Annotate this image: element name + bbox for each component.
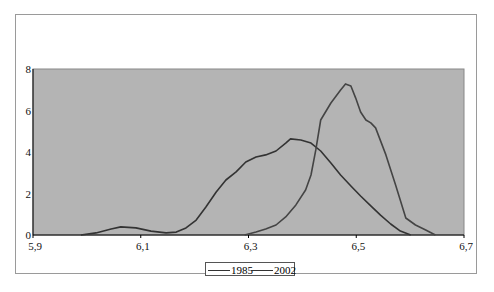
legend-item-1985: 1985 bbox=[208, 263, 253, 277]
legend: 1985 2002 bbox=[205, 262, 295, 276]
legend-line-icon bbox=[251, 270, 273, 271]
x-tick-labels: 5,96,16,36,56,7 bbox=[28, 235, 473, 252]
y-tick-label: 4 bbox=[26, 146, 32, 158]
legend-label: 2002 bbox=[274, 263, 296, 277]
legend-item-2002: 2002 bbox=[251, 263, 296, 277]
legend-line-icon bbox=[208, 270, 230, 271]
y-tick-label: 6 bbox=[26, 105, 32, 117]
legend-label: 1985 bbox=[231, 263, 253, 277]
line-chart: 02468 5,96,16,36,56,7 bbox=[0, 0, 494, 292]
x-tick-label: 5,9 bbox=[28, 240, 42, 252]
y-tick-labels: 02468 bbox=[26, 63, 32, 241]
x-tick-label: 6,3 bbox=[244, 240, 258, 252]
x-tick-label: 6,5 bbox=[351, 240, 365, 252]
y-tick-label: 8 bbox=[26, 63, 32, 75]
plot-area bbox=[33, 69, 464, 235]
y-tick-label: 2 bbox=[26, 188, 32, 200]
x-tick-label: 6,7 bbox=[459, 240, 473, 252]
x-tick-label: 6,1 bbox=[136, 240, 150, 252]
